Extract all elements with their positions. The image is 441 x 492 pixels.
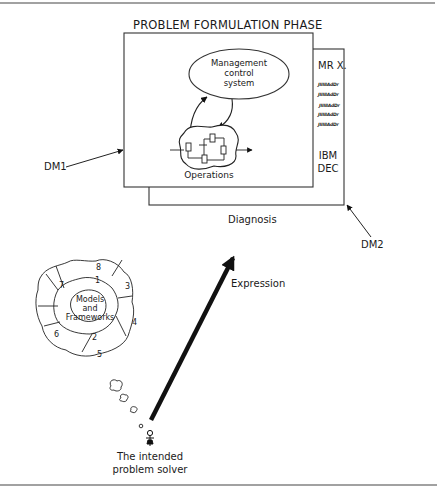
segment-4: 4 [132, 318, 137, 327]
cloud-center-label: Models and Frameworks [66, 295, 114, 322]
side-footer: IBM DEC [317, 149, 338, 175]
diagnosis-label: Diagnosis [228, 214, 277, 226]
operations-label: Operations [184, 169, 233, 181]
solver-label: The intended problem solver [113, 450, 188, 476]
thought-bubbles [110, 380, 143, 428]
dm2-arrow [347, 205, 371, 237]
expression-arrow [151, 258, 233, 420]
scribble-2: JIIIIIAdDr [318, 92, 339, 97]
dm1-label: DM1 [44, 161, 67, 173]
solver-figure [146, 430, 154, 446]
segment-5: 5 [97, 350, 102, 359]
scribble-3: JIIIIIAdDr [319, 103, 340, 108]
segment-3: 3 [125, 282, 130, 291]
expression-label: Expression [231, 278, 285, 290]
side-header: MR X. [318, 60, 347, 72]
scribble-1: JIIIIIAdDr [318, 82, 339, 87]
segment-7: 7 [59, 281, 64, 290]
dm1-arrow [66, 150, 123, 167]
segment-8: 8 [96, 263, 101, 272]
phase-title: PROBLEM FORMULATION PHASE [133, 19, 323, 31]
segment-2: 2 [92, 333, 97, 342]
segment-1: 1 [95, 276, 100, 285]
dm2-label: DM2 [361, 239, 384, 251]
management-label: Management control system [211, 58, 267, 88]
scribble-5: JIIIIIAdDr [318, 122, 339, 127]
scribble-4: JIIIIIAdDr [318, 112, 339, 117]
segment-6: 6 [54, 330, 59, 339]
